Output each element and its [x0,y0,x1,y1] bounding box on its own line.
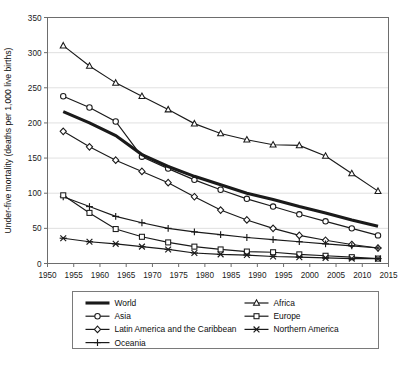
x-tick-label-1975: 1975 [170,271,189,280]
series-marker-europe [166,240,171,245]
series-marker-asia [244,196,249,201]
x-tick-label-1960: 1960 [91,271,110,280]
legend-label-europe: Europe [274,311,301,321]
y-tick-label-300: 300 [28,49,42,58]
series-marker-asia [270,204,275,209]
x-tick-label-2015: 2015 [379,271,398,280]
x-tick-label-1980: 1980 [196,271,215,280]
series-marker-europe [192,244,197,249]
series-marker-asia [375,233,380,238]
under-five-mortality-chart: 050100150200250300350 195019551960196519… [0,0,417,367]
series-marker-europe [139,234,144,239]
y-tick-label-200: 200 [28,119,42,128]
series-marker-asia [349,226,354,231]
x-tick-label-2005: 2005 [327,271,346,280]
series-marker-asia [61,94,66,99]
y-tick-label-0: 0 [37,260,42,269]
x-tick-label-1995: 1995 [274,271,293,280]
chart-canvas: 050100150200250300350 195019551960196519… [0,0,417,367]
chart-background [0,0,417,367]
series-marker-europe [87,210,92,215]
legend-label-oceania: Oceania [115,338,147,348]
legend-label-latin-america-and-the-caribbean: Latin America and the Caribbean [115,324,237,334]
y-axis-title-text: Under-five mortality (deaths per 1,000 l… [3,47,13,233]
y-tick-label-250: 250 [28,84,42,93]
legend-label-asia: Asia [115,311,132,321]
series-marker-asia [323,219,328,224]
legend-marker-asia [95,314,100,319]
y-tick-label-50: 50 [32,224,42,233]
x-tick-label-1955: 1955 [65,271,84,280]
series-marker-europe [61,193,66,198]
legend-label-world: World [115,298,137,308]
y-tick-label-150: 150 [28,154,42,163]
x-tick-label-1970: 1970 [143,271,162,280]
series-marker-europe [218,247,223,252]
x-tick-label-1950: 1950 [38,271,57,280]
legend-marker-europe [254,314,259,319]
y-tick-label-350: 350 [28,14,42,23]
x-tick-label-2010: 2010 [353,271,372,280]
y-tick-label-100: 100 [28,189,42,198]
legend-label-africa: Africa [274,298,296,308]
x-tick-label-1965: 1965 [117,271,136,280]
series-marker-asia [113,119,118,124]
series-marker-asia [218,187,223,192]
series-marker-asia [297,212,302,217]
x-tick-label-1990: 1990 [248,271,267,280]
y-axis-title: Under-five mortality (deaths per 1,000 l… [3,47,13,233]
series-marker-asia [87,105,92,110]
x-tick-label-1985: 1985 [222,271,241,280]
series-marker-europe [113,227,118,232]
legend-label-northern-america: Northern America [274,324,340,334]
x-tick-label-2000: 2000 [301,271,320,280]
